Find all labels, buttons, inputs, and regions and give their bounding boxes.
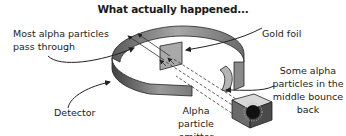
label-bounce-back: Some alpha particles in the middle bounc… (270, 64, 346, 116)
detector-arrow (68, 82, 110, 108)
label-detector: Detector (54, 106, 95, 119)
gold-foil (160, 42, 182, 70)
alpha-particle-emitter (232, 94, 272, 128)
label-emitter: Alpha particle emitter (164, 104, 228, 136)
bounce-back-arrow (226, 86, 274, 90)
label-pass-through: Most alpha particles pass through (13, 27, 109, 53)
label-gold-foil: Gold foil (262, 27, 301, 40)
